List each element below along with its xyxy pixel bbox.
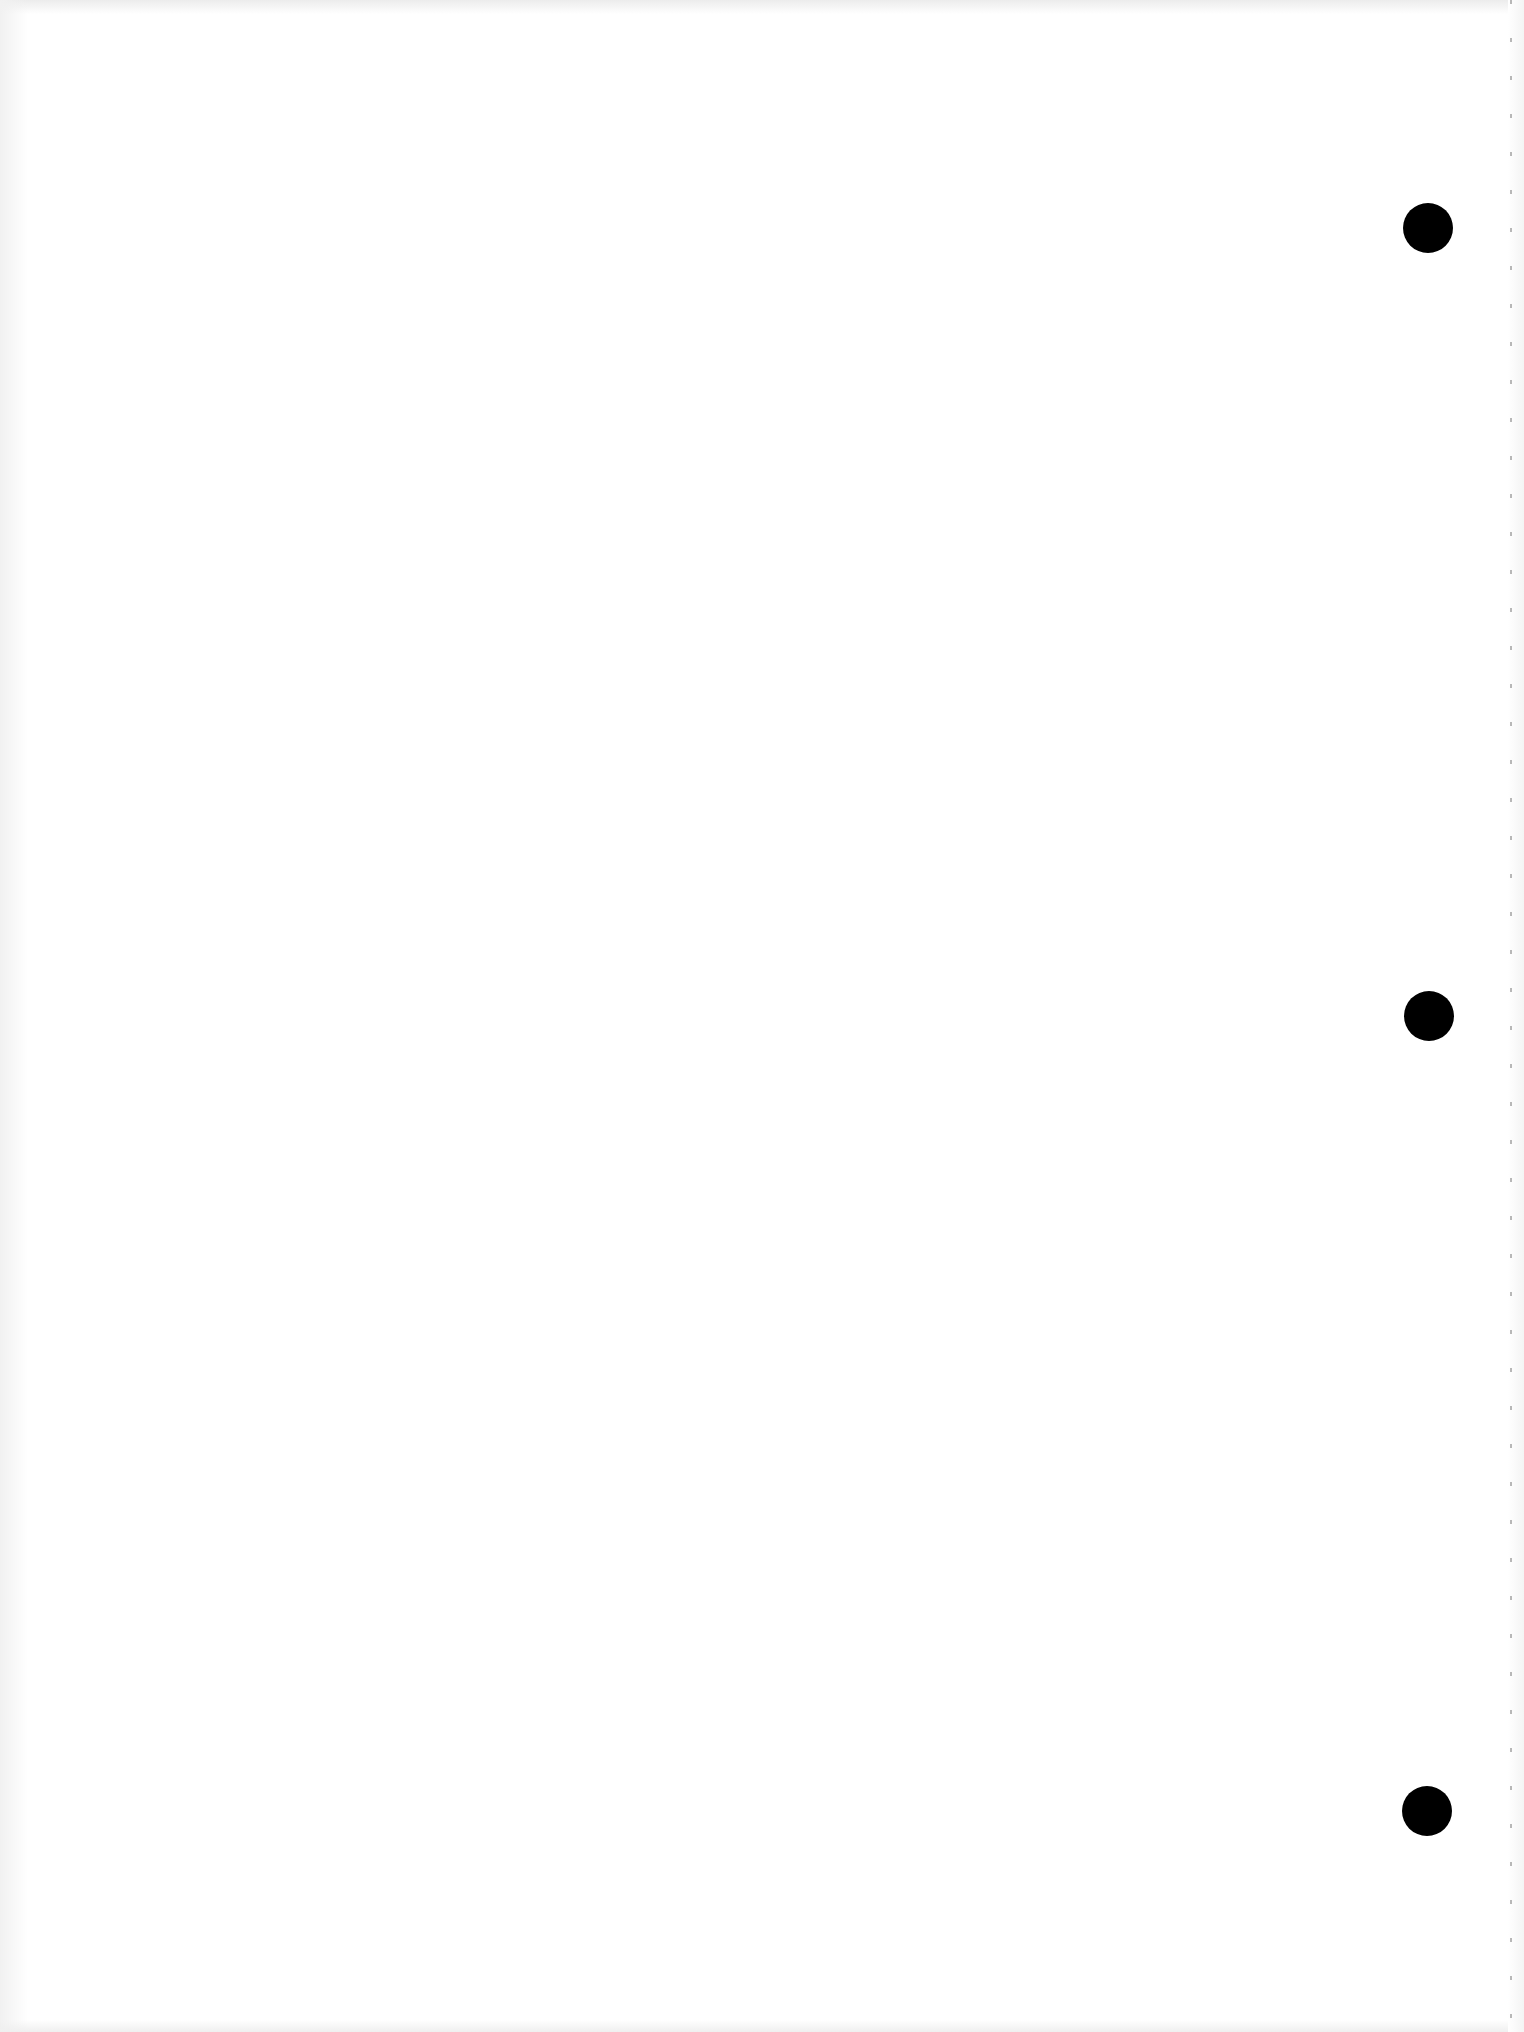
scan-shadow-left (0, 0, 28, 2032)
perforated-edge (1510, 0, 1512, 2032)
punch-hole-top-icon (1403, 203, 1453, 253)
paper-sheet (0, 0, 1524, 2032)
punch-hole-bottom-icon (1402, 1786, 1452, 1836)
scan-shadow-bottom (0, 2020, 1524, 2032)
scan-shadow-top (0, 0, 1524, 14)
punch-hole-middle-icon (1404, 991, 1454, 1041)
